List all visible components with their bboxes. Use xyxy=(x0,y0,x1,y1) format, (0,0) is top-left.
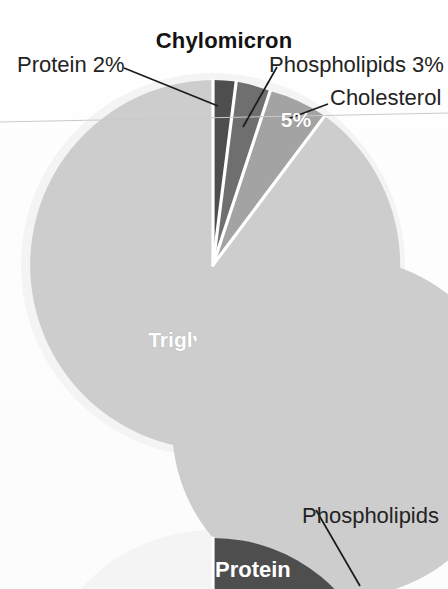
chart-vldl: VLDL Phospholipids Protein xyxy=(0,480,448,589)
label-cholesterol-percent: 5% xyxy=(266,108,326,131)
figure-page: Chylomicron xyxy=(0,0,448,589)
vldl-label-protein: Protein xyxy=(215,558,345,582)
vldl-callout-phospholipids: Phospholipids xyxy=(302,504,439,528)
callout-phospholipids: Phospholipids 3% xyxy=(269,53,444,77)
callout-cholesterol: Cholesterol xyxy=(330,86,441,110)
callout-protein: Protein 2% xyxy=(17,53,125,77)
